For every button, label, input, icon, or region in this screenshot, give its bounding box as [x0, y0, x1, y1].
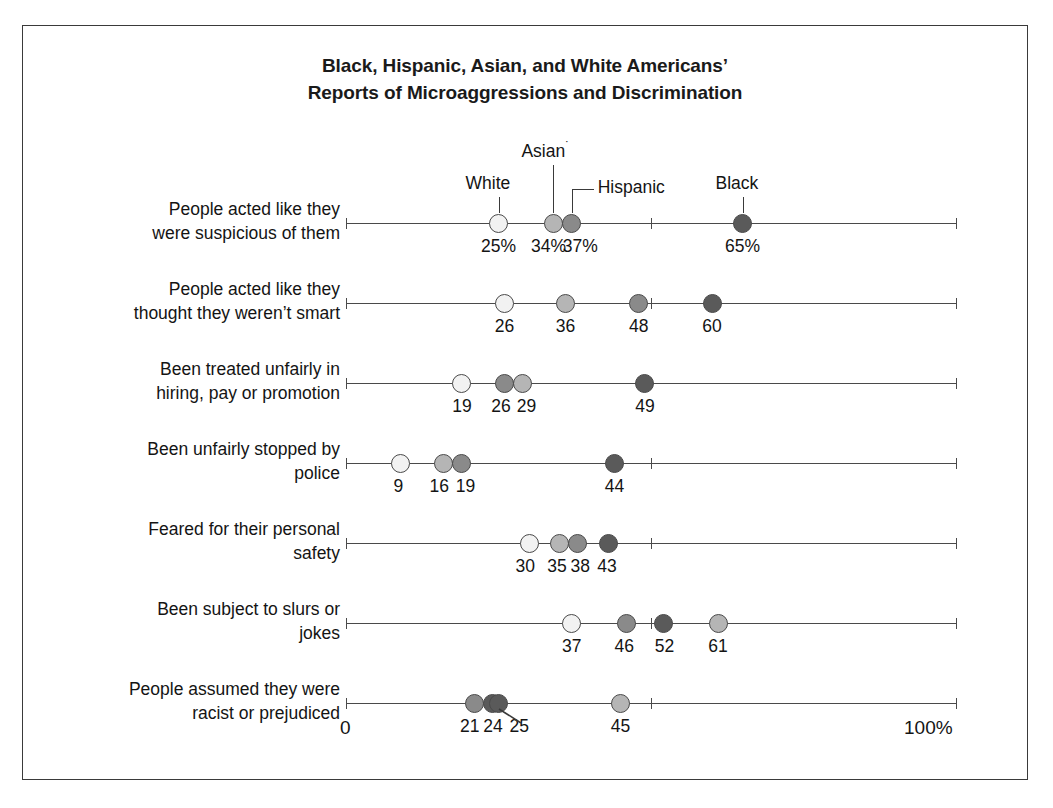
data-point-white	[562, 614, 581, 633]
axis-end-tick	[956, 298, 957, 309]
data-point-asian	[513, 374, 532, 393]
data-point-value: 52	[655, 636, 674, 657]
data-point-hispanic	[568, 534, 587, 553]
data-point-asian	[550, 534, 569, 553]
legend-leader-asian	[553, 165, 554, 213]
data-point-value: 65%	[725, 236, 760, 257]
data-point-value: 29	[517, 396, 536, 417]
row-label: People acted like theythought they weren…	[50, 277, 340, 325]
row-label: Feared for their personalsafety	[50, 517, 340, 565]
row-label-line-2: were suspicious of them	[50, 221, 340, 245]
data-point-hispanic	[617, 614, 636, 633]
row-label: People acted like theywere suspicious of…	[50, 197, 340, 245]
data-point-black	[605, 454, 624, 473]
data-point-asian	[544, 214, 563, 233]
data-point-value: 9	[394, 476, 404, 497]
data-point-value: 26	[491, 396, 510, 417]
data-point-white	[391, 454, 410, 473]
axis-end-tick	[956, 698, 957, 709]
data-point-value: 37	[562, 636, 581, 657]
row-label-line-1: People acted like they	[50, 277, 340, 301]
row-label-line-1: Been subject to slurs or	[50, 597, 340, 621]
data-point-black	[599, 534, 618, 553]
axis-start-tick	[346, 298, 347, 309]
axis-start-tick	[346, 458, 347, 469]
data-point-black	[733, 214, 752, 233]
legend-label-hispanic: Hispanic	[598, 177, 665, 198]
row-label-line-1: Been treated unfairly in	[50, 357, 340, 381]
data-point-value: 49	[635, 396, 654, 417]
legend-label-black: Black	[716, 173, 759, 194]
row-label: Been subject to slurs orjokes	[50, 597, 340, 645]
data-point-white	[489, 214, 508, 233]
data-point-value: 34%	[531, 236, 566, 257]
row-label: Been treated unfairly inhiring, pay or p…	[50, 357, 340, 405]
row-label-line-2: police	[50, 461, 340, 485]
data-point-value: 19	[452, 396, 471, 417]
data-point-value: 35	[547, 556, 566, 577]
legend-label-asian: Asian˙	[521, 141, 569, 162]
data-point-white	[495, 294, 514, 313]
data-point-asian	[556, 294, 575, 313]
data-point-white	[452, 374, 471, 393]
legend-label-white: White	[466, 173, 511, 194]
data-point-asian	[709, 614, 728, 633]
data-point-value: 21	[460, 716, 479, 737]
axis-start-tick	[346, 538, 347, 549]
axis-end-tick	[956, 458, 957, 469]
axis-end-tick	[956, 538, 957, 549]
data-point-value: 44	[605, 476, 624, 497]
axis-start-label: 0	[340, 717, 351, 739]
row-label-line-1: Feared for their personal	[50, 517, 340, 541]
axis-start-tick	[346, 618, 347, 629]
legend-leader-white	[499, 197, 500, 213]
axis-start-tick	[346, 698, 347, 709]
plot-area: People acted like theywere suspicious of…	[23, 26, 1027, 779]
data-point-value: 36	[556, 316, 575, 337]
data-point-value: 48	[629, 316, 648, 337]
axis-mid-tick	[651, 298, 652, 309]
axis-mid-tick	[651, 698, 652, 709]
axis-mid-tick	[651, 618, 652, 629]
data-point-black	[703, 294, 722, 313]
data-point-value: 26	[495, 316, 514, 337]
axis-start-tick	[346, 218, 347, 229]
data-point-value: 60	[702, 316, 721, 337]
row-label-line-2: safety	[50, 541, 340, 565]
row-label-line-2: jokes	[50, 621, 340, 645]
axis-end-tick	[956, 618, 957, 629]
row-label-line-1: People acted like they	[50, 197, 340, 221]
data-point-hispanic	[562, 214, 581, 233]
axis-end-label: 100%	[904, 717, 953, 739]
axis-end-tick	[956, 218, 957, 229]
data-point-value: 46	[614, 636, 633, 657]
data-point-value: 19	[456, 476, 475, 497]
data-point-hispanic	[465, 694, 484, 713]
data-point-value: 61	[708, 636, 727, 657]
data-point-hispanic	[495, 374, 514, 393]
value-leader-line	[497, 706, 557, 732]
row-label-line-2: thought they weren’t smart	[50, 301, 340, 325]
data-point-asian	[434, 454, 453, 473]
data-point-black	[654, 614, 673, 633]
data-point-value: 43	[597, 556, 616, 577]
legend-leader-black	[743, 197, 744, 213]
data-point-value: 37%	[563, 236, 598, 257]
data-point-value: 25%	[481, 236, 516, 257]
data-point-value: 30	[516, 556, 535, 577]
row-label-line-2: racist or prejudiced	[50, 701, 340, 725]
row-label: People assumed they wereracist or prejud…	[50, 677, 340, 725]
asian-footnote-marker: ˙	[565, 138, 569, 153]
figure-frame: Black, Hispanic, Asian, and White Americ…	[22, 25, 1028, 780]
row-label-line-2: hiring, pay or promotion	[50, 381, 340, 405]
data-point-value: 16	[430, 476, 449, 497]
axis-start-tick	[346, 378, 347, 389]
axis-end-tick	[956, 378, 957, 389]
axis-mid-tick	[651, 218, 652, 229]
axis-mid-tick	[651, 458, 652, 469]
data-point-value: 45	[611, 716, 630, 737]
data-point-asian	[611, 694, 630, 713]
data-point-value: 38	[571, 556, 590, 577]
legend-leader-hispanic-h	[572, 189, 594, 190]
row-label-line-1: People assumed they were	[50, 677, 340, 701]
